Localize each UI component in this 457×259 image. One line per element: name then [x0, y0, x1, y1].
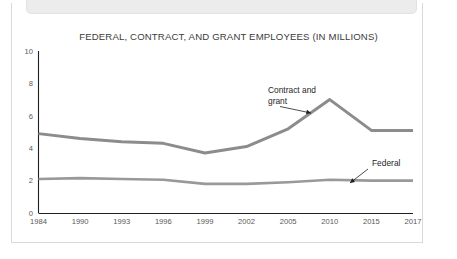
chart-title: FEDERAL, CONTRACT, AND GRANT EMPLOYEES (… — [0, 31, 457, 42]
